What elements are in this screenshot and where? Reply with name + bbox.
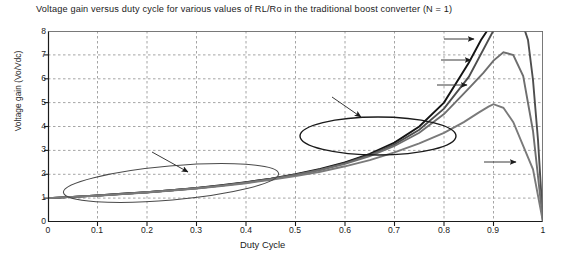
x-axis-ticks: [98, 222, 494, 226]
plot-canvas: [0, 0, 571, 262]
chart-screenshot: Voltage gain versus duty cycle for vario…: [0, 0, 571, 262]
y-axis-ticks: [44, 55, 48, 198]
